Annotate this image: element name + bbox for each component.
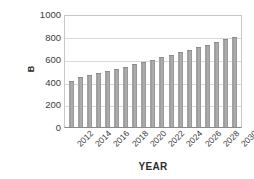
x-tick-label: 2012: [75, 129, 95, 149]
bar-slot: [139, 16, 148, 127]
bar-series: [65, 16, 241, 127]
bar[interactable]: [214, 42, 219, 127]
x-tick-label: 2018: [130, 129, 150, 149]
bar[interactable]: [114, 69, 119, 127]
bar[interactable]: [150, 60, 155, 127]
bar[interactable]: [69, 81, 74, 127]
bar[interactable]: [196, 47, 201, 127]
bar[interactable]: [87, 75, 92, 127]
y-axis-tick-labels: 1000 800 600 400 200 0: [26, 10, 61, 134]
y-tick-label: 600: [26, 55, 61, 65]
bar[interactable]: [96, 73, 101, 127]
bar-slot: [112, 16, 121, 127]
x-tick-label: 2026: [203, 129, 223, 149]
y-tick-label: 800: [26, 33, 61, 43]
x-tick-label: 2016: [112, 129, 132, 149]
bar-slot: [167, 16, 176, 127]
x-axis-tick-labels: 2012201420162018202020222024202620282030: [64, 129, 242, 157]
bar-slot: [157, 16, 166, 127]
bar[interactable]: [223, 39, 228, 127]
y-tick-label: 400: [26, 78, 61, 88]
bar-slot: [194, 16, 203, 127]
bar-slot: [185, 16, 194, 127]
x-tick-label: 2028: [222, 129, 242, 149]
bar[interactable]: [78, 77, 83, 127]
bar[interactable]: [141, 62, 146, 127]
x-tick-label: 2024: [185, 129, 205, 149]
bar-slot: [148, 16, 157, 127]
bar[interactable]: [169, 55, 174, 127]
x-tick-label: 2022: [167, 129, 187, 149]
bar-slot: [212, 16, 221, 127]
y-tick-label: 1000: [26, 10, 61, 20]
plot-area: [64, 15, 242, 128]
bar[interactable]: [123, 67, 128, 127]
bar-slot: [130, 16, 139, 127]
bar[interactable]: [105, 71, 110, 127]
y-tick-label: 0: [26, 123, 61, 133]
bar[interactable]: [232, 37, 237, 127]
bar[interactable]: [132, 64, 137, 127]
bar[interactable]: [159, 57, 164, 127]
bar-slot: [103, 16, 112, 127]
bar-slot: [76, 16, 85, 127]
bar-slot: [67, 16, 76, 127]
x-tick-label: 2030: [240, 129, 254, 149]
y-tick-label: 200: [26, 100, 61, 110]
x-tick-label: 2020: [148, 129, 168, 149]
bar[interactable]: [205, 45, 210, 127]
bar-slot: [230, 16, 239, 127]
bar-chart: B 1000 800 600 400 200 0 201220142016201…: [0, 0, 254, 179]
bar[interactable]: [178, 52, 183, 127]
x-tick-label: 2014: [93, 129, 113, 149]
bar-slot: [221, 16, 230, 127]
bar-slot: [203, 16, 212, 127]
bar-slot: [85, 16, 94, 127]
bar[interactable]: [187, 50, 192, 127]
bar-slot: [121, 16, 130, 127]
bar-slot: [94, 16, 103, 127]
x-axis-title: YEAR: [64, 161, 242, 172]
bar-slot: [176, 16, 185, 127]
